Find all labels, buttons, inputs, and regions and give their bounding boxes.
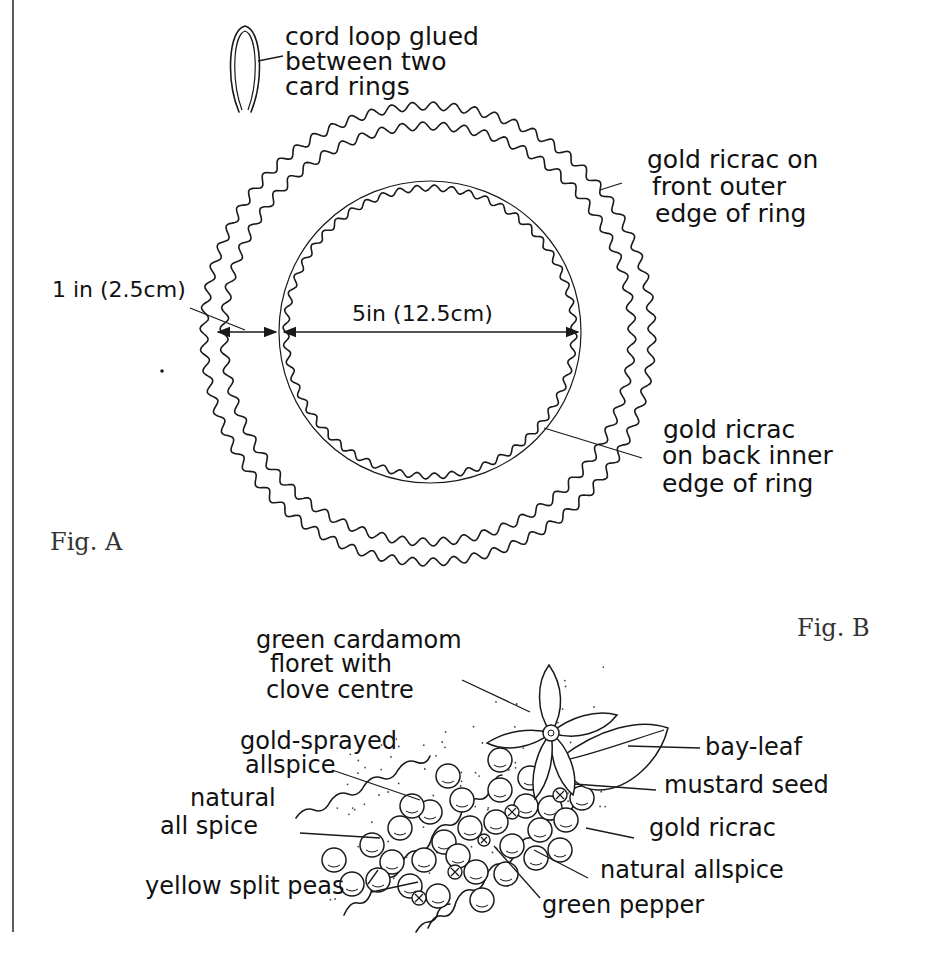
ricrac-leader bbox=[586, 828, 634, 838]
figure-b: Fig. B bbox=[145, 614, 870, 932]
cardamom-callout: green cardamom floret with clove centre bbox=[256, 626, 469, 704]
outer-ricrac-ring bbox=[200, 102, 656, 566]
figure-a: cord loop glued between two card rings g… bbox=[50, 22, 841, 566]
loop-leader-line bbox=[258, 56, 283, 61]
ring-width-label: 1 in (2.5cm) bbox=[52, 277, 186, 302]
gold-allspice-callout: gold-sprayed allspice bbox=[240, 727, 405, 779]
diagram-canvas: cord loop glued between two card rings g… bbox=[0, 0, 933, 976]
mustard-callout: mustard seed bbox=[664, 771, 829, 799]
natural-allspice-left-callout: natural all spice bbox=[160, 784, 283, 840]
green-pepper-callout: green pepper bbox=[542, 891, 704, 919]
gold-allspice-leader bbox=[332, 770, 420, 800]
cardamom-leader bbox=[462, 680, 530, 712]
split-peas-callout: yellow split peas bbox=[145, 872, 345, 900]
stray-dot bbox=[160, 369, 164, 373]
outer-ricrac-leader bbox=[600, 183, 622, 190]
inner-diameter-label: 5in (12.5cm) bbox=[352, 301, 493, 326]
cord-loop-icon bbox=[231, 26, 260, 112]
bay-leaf-callout: bay-leaf bbox=[705, 733, 803, 761]
ricrac-callout: gold ricrac bbox=[649, 814, 776, 842]
inner-ricrac-callout: gold ricrac on back inner edge of ring bbox=[662, 415, 841, 498]
ricrac-band-bottom-3 bbox=[416, 904, 450, 932]
natural-allspice-right-callout: natural allspice bbox=[600, 856, 784, 884]
loop-callout: cord loop glued between two card rings bbox=[285, 22, 487, 101]
ring-width-leader bbox=[190, 308, 245, 330]
outer-ricrac-callout: gold ricrac on front outer edge of ring bbox=[647, 145, 826, 228]
figure-b-caption: Fig. B bbox=[797, 614, 870, 642]
clove-centre-icon bbox=[543, 725, 559, 741]
figure-a-caption: Fig. A bbox=[50, 528, 123, 556]
